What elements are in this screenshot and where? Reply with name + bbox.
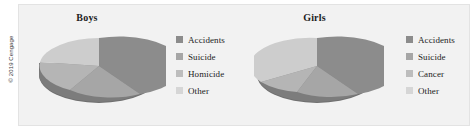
pie-chart-girls-svg	[254, 30, 384, 112]
legend-label: Cancer	[418, 69, 444, 79]
legend-label: Suicide	[188, 52, 216, 62]
pie-chart-girls	[254, 30, 384, 112]
legend-label: Other	[188, 86, 209, 96]
legend-item[interactable]: Suicide	[176, 49, 225, 64]
legend-swatch-other	[406, 87, 413, 94]
legend-item[interactable]: Other	[176, 83, 225, 98]
legend-swatch-cancer	[406, 70, 413, 77]
legend-swatch-suicide	[176, 53, 183, 60]
legend-swatch-accidents	[406, 36, 413, 43]
legend-label: Accidents	[188, 35, 225, 45]
legend-swatch-suicide	[406, 53, 413, 60]
legend-label: Other	[418, 86, 439, 96]
chart-title-girls: Girls	[198, 12, 431, 23]
legend-item[interactable]: Suicide	[406, 49, 455, 64]
pie-chart-boys-svg	[36, 30, 166, 112]
legend-label: Accidents	[418, 35, 455, 45]
legend-item[interactable]: Accidents	[176, 32, 225, 47]
chart-title-boys: Boys	[0, 12, 200, 23]
legend-label: Suicide	[418, 52, 446, 62]
copyright-notice: © 2019 Cengage	[8, 26, 14, 92]
legend-girls: Accidents Suicide Cancer Other	[406, 32, 455, 100]
legend-item[interactable]: Other	[406, 83, 455, 98]
pie-chart-boys	[36, 30, 166, 112]
legend-label: Homicide	[188, 69, 224, 79]
legend-item[interactable]: Cancer	[406, 66, 455, 81]
legend-swatch-homicide	[176, 70, 183, 77]
legend-boys: Accidents Suicide Homicide Other	[176, 32, 225, 100]
figure-container: © 2019 Cengage Boys	[0, 0, 473, 130]
pie-slice-boys-other	[40, 38, 99, 66]
chart-panel-girls: Girls	[240, 0, 473, 130]
legend-item[interactable]: Homicide	[176, 66, 225, 81]
legend-swatch-accidents	[176, 36, 183, 43]
legend-item[interactable]: Accidents	[406, 32, 455, 47]
legend-swatch-other	[176, 87, 183, 94]
